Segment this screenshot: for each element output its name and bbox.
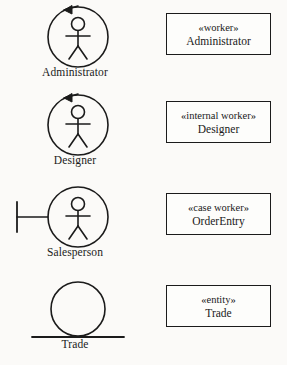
uml-stereotype-diagram: Administrator «worker» Administrator Des… <box>0 0 287 365</box>
internal-worker-class-box: «internal worker» Designer <box>166 101 271 143</box>
case-worker-class-box: «case worker» OrderEntry <box>166 193 271 235</box>
entity-icon-cell: Trade <box>0 274 150 365</box>
worker-class-name: Administrator <box>186 34 251 48</box>
case-worker-actor-icon <box>8 182 148 252</box>
case-worker-icon-cell: Salesperson <box>0 180 150 271</box>
diagram-row-entity: Trade «entity» Trade <box>0 274 287 365</box>
entity-stereotype-label: «entity» <box>201 293 235 306</box>
entity-class-box: «entity» Trade <box>166 285 271 327</box>
worker-actor-icon <box>8 2 148 72</box>
diagram-row-case-worker: Salesperson «case worker» OrderEntry <box>0 180 287 271</box>
case-worker-icon-label: Salesperson <box>0 246 150 259</box>
internal-worker-icon-label: Designer <box>0 154 150 167</box>
worker-stereotype-label: «worker» <box>198 21 238 34</box>
internal-worker-class-name: Designer <box>198 122 240 136</box>
diagram-row-worker: Administrator «worker» Administrator <box>0 0 287 91</box>
entity-box-cell: «entity» Trade <box>150 274 287 365</box>
entity-icon <box>8 276 148 346</box>
entity-class-name: Trade <box>205 306 231 320</box>
diagram-row-internal-worker: Designer «internal worker» Designer <box>0 88 287 179</box>
worker-icon-label: Administrator <box>0 66 150 79</box>
case-worker-stereotype-label: «case worker» <box>188 201 249 214</box>
case-worker-box-cell: «case worker» OrderEntry <box>150 180 287 271</box>
internal-worker-box-cell: «internal worker» Designer <box>150 88 287 179</box>
worker-icon-cell: Administrator <box>0 0 150 91</box>
internal-worker-actor-icon <box>8 90 148 160</box>
entity-icon-label: Trade <box>0 338 150 351</box>
worker-class-box: «worker» Administrator <box>166 13 271 55</box>
internal-worker-stereotype-label: «internal worker» <box>181 109 256 122</box>
case-worker-class-name: OrderEntry <box>192 214 244 228</box>
worker-box-cell: «worker» Administrator <box>150 0 287 91</box>
internal-worker-icon-cell: Designer <box>0 88 150 179</box>
